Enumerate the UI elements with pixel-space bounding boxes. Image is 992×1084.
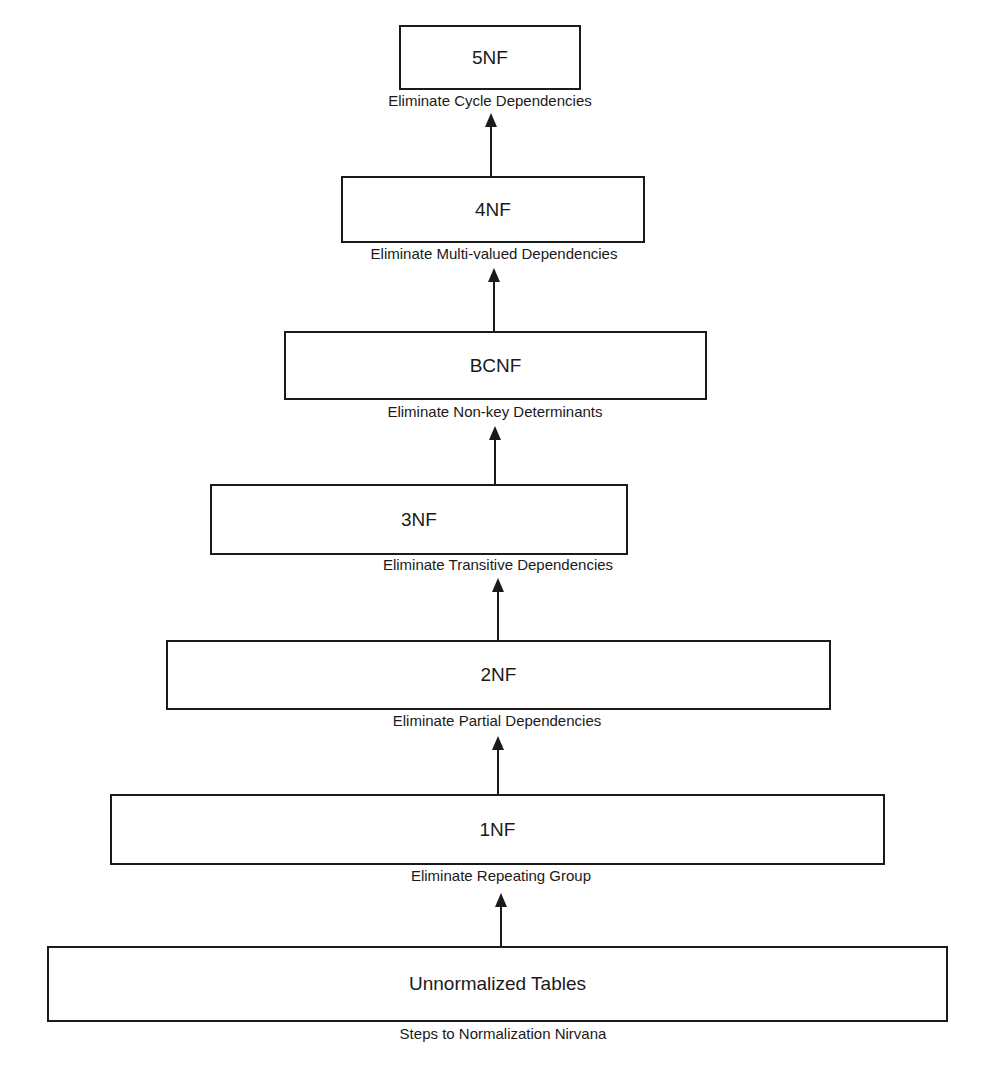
box-5nf: 5NF bbox=[399, 25, 581, 90]
box-1nf-text: 1NF bbox=[480, 819, 516, 841]
label-1nf: Eliminate Repeating Group bbox=[411, 867, 591, 884]
diagram-caption: Steps to Normalization Nirvana bbox=[400, 1025, 607, 1042]
box-bcnf-text: BCNF bbox=[470, 355, 522, 377]
box-4nf-text: 4NF bbox=[475, 199, 511, 221]
box-2nf-text: 2NF bbox=[481, 664, 517, 686]
box-bcnf: BCNF bbox=[284, 331, 707, 400]
box-unnormalized-text: Unnormalized Tables bbox=[409, 973, 586, 995]
box-4nf: 4NF bbox=[341, 176, 645, 243]
arrow-3nf-to-bcnf bbox=[494, 438, 496, 486]
label-3nf: Eliminate Transitive Dependencies bbox=[383, 556, 613, 573]
box-2nf: 2NF bbox=[166, 640, 831, 710]
arrow-1nf-to-2nf bbox=[497, 748, 499, 798]
box-5nf-text: 5NF bbox=[472, 47, 508, 69]
arrow-bcnf-to-4nf bbox=[493, 280, 495, 336]
arrow-2nf-to-3nf bbox=[497, 590, 499, 646]
label-5nf: Eliminate Cycle Dependencies bbox=[388, 92, 591, 109]
box-3nf: 3NF bbox=[210, 484, 628, 555]
box-3nf-text: 3NF bbox=[401, 509, 437, 531]
label-bcnf: Eliminate Non-key Determinants bbox=[387, 403, 602, 420]
label-4nf: Eliminate Multi-valued Dependencies bbox=[371, 245, 618, 262]
arrow-4nf-to-5nf bbox=[490, 125, 492, 178]
label-2nf: Eliminate Partial Dependencies bbox=[393, 712, 601, 729]
box-unnormalized-tables: Unnormalized Tables bbox=[47, 946, 948, 1022]
box-1nf: 1NF bbox=[110, 794, 885, 865]
